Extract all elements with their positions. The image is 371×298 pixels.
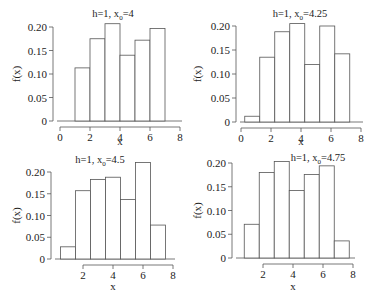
y-tick-label: 0.05 (207, 228, 227, 240)
histogram-bar (319, 166, 334, 258)
histogram-bar (245, 116, 260, 122)
histogram-bar (106, 177, 121, 259)
y-axis-label: f(x) (191, 202, 204, 219)
histogram-grid: 00.050.100.150.2002468xf(x)h=1, x0=400.0… (0, 0, 371, 298)
panel-title: h=1, x0=4 (92, 8, 134, 22)
y-tick-label: 0.15 (207, 181, 227, 193)
y-axis-label: f(x) (191, 65, 204, 82)
y-tick-label: 0.20 (26, 166, 46, 178)
y-tick-label: 0.15 (26, 188, 46, 200)
y-tick-label: 0.15 (211, 44, 231, 56)
histogram-bar (244, 224, 259, 258)
histogram-bar (135, 40, 150, 121)
x-tick-label: 6 (328, 132, 334, 144)
histogram-bar (259, 173, 274, 259)
histogram-bar (121, 199, 136, 259)
histogram-bar (260, 57, 275, 122)
x-axis-label: x (298, 135, 304, 147)
x-tick-label: 8 (177, 131, 183, 143)
histogram-bar (136, 162, 151, 259)
x-axis-label: x (110, 280, 116, 292)
y-axis-label: f(x) (10, 65, 23, 82)
x-tick-label: 2 (80, 269, 86, 281)
y-tick-label: 0.20 (28, 21, 48, 33)
y-tick-label: 0.20 (207, 157, 227, 169)
y-tick-label: 0 (40, 253, 46, 265)
histogram-panel-1: 00.050.100.150.2002468xf(x)h=1, x0=4 (10, 8, 183, 147)
histogram-bar (61, 247, 76, 259)
histogram-bar (334, 241, 349, 258)
y-axis-label: f(x) (10, 207, 23, 224)
x-tick-label: 6 (147, 131, 153, 143)
x-tick-label: 8 (350, 268, 356, 280)
histogram-bar (275, 32, 290, 122)
histogram-bar (274, 162, 289, 258)
histogram-panel-3: 00.050.100.150.202468xf(x)h=1, x0=4.5 (10, 154, 176, 292)
histogram-bar (120, 55, 135, 121)
histogram-bar (304, 174, 319, 258)
panel-title: h=1, x0=4.75 (291, 152, 346, 166)
y-tick-label: 0.20 (211, 20, 231, 32)
x-tick-label: 0 (238, 132, 244, 144)
histogram-bar (105, 24, 120, 121)
y-tick-label: 0 (221, 252, 227, 264)
histogram-bar (305, 64, 320, 122)
y-tick-label: 0.10 (207, 205, 227, 217)
y-tick-label: 0.10 (26, 210, 46, 222)
histogram-bar (290, 24, 305, 122)
x-tick-label: 2 (268, 132, 274, 144)
x-tick-label: 8 (170, 269, 176, 281)
x-tick-label: 2 (260, 268, 266, 280)
histogram-bar (150, 28, 165, 121)
y-tick-label: 0.15 (28, 45, 48, 57)
x-tick-label: 6 (140, 269, 146, 281)
y-tick-label: 0.10 (211, 68, 231, 80)
x-tick-label: 4 (290, 268, 296, 280)
x-tick-label: 6 (320, 268, 326, 280)
histogram-bar (151, 225, 166, 259)
histogram-panel-4: 00.050.100.150.202468xf(x)h=1, x0=4.75 (191, 152, 356, 292)
y-tick-label: 0.05 (211, 92, 231, 104)
x-tick-label: 2 (87, 131, 93, 143)
x-tick-label: 0 (57, 131, 63, 143)
histogram-bar (76, 191, 91, 259)
y-tick-label: 0.05 (28, 92, 48, 104)
x-axis-label: x (117, 135, 123, 147)
panel-title: h=1, x0=4.25 (273, 8, 328, 22)
y-tick-label: 0.10 (28, 68, 48, 80)
histogram-bar (335, 54, 350, 122)
histogram-bar (91, 179, 106, 259)
histogram-panel-2: 00.050.100.150.2002468xf(x)h=1, x0=4.25 (191, 8, 364, 147)
histogram-bar (90, 39, 105, 121)
y-tick-label: 0.05 (26, 231, 46, 243)
x-tick-label: 8 (358, 132, 364, 144)
panel-title: h=1, x0=4.5 (75, 154, 124, 168)
y-tick-label: 0 (42, 115, 48, 127)
histogram-bar (320, 26, 335, 122)
x-axis-label: x (290, 280, 296, 292)
histogram-bar (75, 68, 90, 121)
y-tick-label: 0 (225, 116, 231, 128)
histogram-bar (289, 191, 304, 258)
